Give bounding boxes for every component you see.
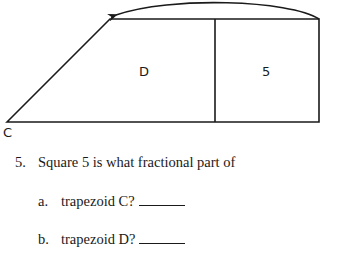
- trapezoid-diagram: D 5 C: [0, 0, 338, 140]
- region-d-label: D: [139, 64, 149, 79]
- question-text: Square 5 is what fractional part of: [38, 154, 235, 170]
- part-a-letter: a.: [38, 193, 61, 210]
- corner-c-label: C: [3, 125, 12, 140]
- question-part-b: b.trapezoid D?: [38, 231, 185, 248]
- question-number: 5.: [15, 154, 38, 171]
- question-part-a: a.trapezoid C?: [38, 193, 185, 210]
- trapezoid-c-outline: [7, 19, 319, 122]
- part-b-text: trapezoid D?: [61, 231, 135, 247]
- answer-blank-a[interactable]: [139, 193, 185, 206]
- part-b-letter: b.: [38, 231, 61, 248]
- square-5-label: 5: [262, 64, 270, 79]
- answer-blank-b[interactable]: [139, 231, 185, 244]
- part-a-text: trapezoid C?: [61, 193, 135, 209]
- question-prompt: 5.Square 5 is what fractional part of: [15, 154, 235, 171]
- curved-arrow-icon: [116, 3, 319, 19]
